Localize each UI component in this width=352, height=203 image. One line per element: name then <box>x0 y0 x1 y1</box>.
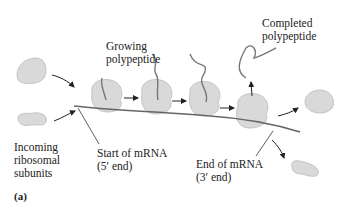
label-growing-polypeptide: Growing polypeptide <box>106 40 160 66</box>
completed-polypeptide-chain <box>239 46 276 78</box>
exiting-small-subunit <box>292 161 319 177</box>
exit-arrow-large <box>278 108 298 116</box>
free-large-subunit <box>17 58 46 84</box>
exit-arrow-small <box>272 140 284 158</box>
exiting-large-subunit <box>305 90 333 113</box>
label-completed-polypeptide: Completed polypeptide <box>262 17 316 43</box>
free-small-subunit <box>18 113 46 126</box>
ribosome-3 <box>190 82 220 117</box>
incoming-arrow-bottom <box>54 111 75 121</box>
incoming-arrow-top <box>52 75 74 87</box>
end-leader-line <box>256 131 273 156</box>
label-incoming-subunits: Incoming ribosomal subunits <box>14 141 60 180</box>
label-start-mrna: Start of mRNA (5′ end) <box>97 147 167 173</box>
ribosome-2 <box>142 80 172 115</box>
panel-label: (a) <box>14 190 27 203</box>
start-leader-line <box>78 108 99 144</box>
label-end-mrna: End of mRNA (3′ end) <box>196 158 263 184</box>
ribosome-1 <box>92 80 122 113</box>
